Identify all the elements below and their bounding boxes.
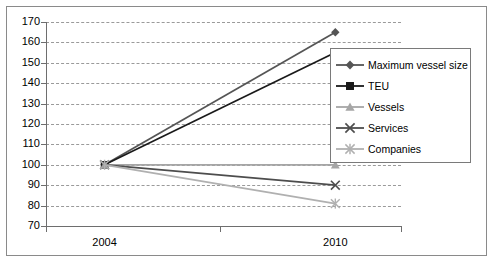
legend-item-teu[interactable]: TEU — [331, 75, 470, 96]
y-tick-mark-170 — [41, 22, 46, 23]
x-tick-label-2004: 2004 — [75, 236, 135, 248]
y-tick-mark-150 — [41, 63, 46, 64]
series-maximum-vessel-size — [100, 28, 339, 169]
line-chart-figure: 170160150140130120110100908070 Maximum v… — [0, 0, 493, 268]
legend-label: Services — [368, 122, 408, 134]
series-line — [105, 165, 336, 185]
y-tick-mark-130 — [41, 104, 46, 105]
legend-item-companies[interactable]: Companies — [331, 138, 470, 159]
series-line — [105, 165, 336, 204]
legend-label: TEU — [368, 80, 389, 92]
y-tick-mark-110 — [41, 144, 46, 145]
series-teu — [101, 49, 339, 169]
legend-swatch-square-icon — [335, 79, 365, 93]
y-tick-mark-120 — [41, 124, 46, 125]
x-tick-label-2010: 2010 — [305, 236, 365, 248]
y-tick-mark-140 — [41, 83, 46, 84]
series-line — [105, 53, 336, 165]
legend-item-services[interactable]: Services — [331, 117, 470, 138]
y-tick-mark-80 — [41, 206, 46, 207]
legend-item-maximum-vessel-size[interactable]: Maximum vessel size — [331, 54, 470, 75]
legend-swatch-triangle-icon — [335, 100, 365, 114]
legend-swatch-diamond-icon — [335, 58, 365, 72]
legend-label: Maximum vessel size — [368, 59, 468, 71]
x-tick-mark-2 — [401, 226, 402, 232]
y-tick-mark-90 — [41, 185, 46, 186]
marker-diamond — [331, 28, 339, 36]
y-tick-mark-160 — [41, 42, 46, 43]
legend-label: Vessels — [368, 101, 404, 113]
x-tick-mark-0 — [46, 226, 47, 232]
legend-label: Companies — [368, 143, 421, 155]
legend-swatch-asterisk-icon — [335, 142, 365, 156]
marker-diamond — [346, 60, 355, 69]
marker-square — [346, 82, 354, 90]
chart-legend: Maximum vessel sizeTEUVesselsServicesCom… — [330, 48, 471, 163]
y-tick-mark-100 — [41, 165, 46, 166]
legend-item-vessels[interactable]: Vessels — [331, 96, 470, 117]
x-tick-mark-1 — [220, 226, 221, 232]
series-line — [105, 32, 336, 165]
legend-swatch-x-icon — [335, 121, 365, 135]
